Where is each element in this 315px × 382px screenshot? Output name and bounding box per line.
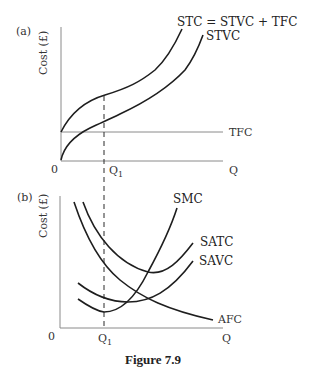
stvc-curve	[61, 35, 203, 160]
tfc-label: TFC	[229, 126, 252, 139]
panel-b-q1-label: Q1	[98, 332, 112, 347]
panel-b: (b) Cost (£) SMC SATC SAVC AFC 0 Q1 Q	[17, 191, 242, 347]
panel-a-origin-label: 0	[51, 163, 58, 176]
panel-a: (a) Cost (£) TFC STC = STVC + TFC STVC 0…	[16, 15, 297, 328]
panel-a-q1-label: Q1	[109, 164, 123, 179]
stc-label: STC = STVC + TFC	[177, 15, 297, 29]
panel-b-y-axis-label: Cost (£)	[37, 194, 50, 238]
stvc-label: STVC	[206, 29, 240, 43]
smc-label: SMC	[173, 192, 203, 206]
panel-b-origin-label: 0	[48, 330, 55, 343]
cost-curves-figure: (a) Cost (£) TFC STC = STVC + TFC STVC 0…	[0, 0, 315, 382]
afc-label: AFC	[217, 313, 242, 326]
panel-a-q-label: Q	[229, 164, 238, 177]
satc-label: SATC	[200, 235, 233, 249]
stc-curve	[61, 29, 182, 132]
panel-b-label: (b)	[17, 191, 33, 204]
figure-caption: Figure 7.9	[125, 352, 182, 367]
panel-b-q-label: Q	[222, 332, 231, 345]
satc-curve	[83, 202, 193, 273]
panel-a-y-axis-label: Cost (£)	[37, 31, 50, 75]
savc-label: SAVC	[199, 254, 233, 268]
panel-a-label: (a)	[16, 25, 31, 38]
